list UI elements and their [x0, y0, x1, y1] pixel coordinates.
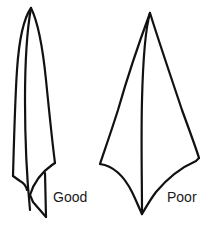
- poor-right-edge: [150, 13, 199, 158]
- good-left-corner: [13, 176, 27, 190]
- poor-figure: [100, 13, 199, 214]
- poor-label: Poor: [167, 190, 197, 204]
- poor-right-bottom-curve: [142, 158, 199, 214]
- good-flap-edge: [45, 173, 46, 217]
- good-label: Good: [53, 190, 87, 204]
- good-right-edge: [31, 8, 55, 163]
- poor-left-bottom-curve: [100, 164, 142, 214]
- poor-center-fold: [142, 13, 150, 214]
- good-figure: [13, 8, 55, 217]
- good-center-fold: [25, 8, 31, 210]
- diagram-canvas: Good Poor: [0, 0, 212, 228]
- good-right-corner-curve: [30, 163, 55, 195]
- good-lower-flap: [30, 195, 46, 217]
